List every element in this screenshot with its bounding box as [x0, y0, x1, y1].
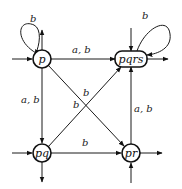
node-label-p: p [38, 53, 45, 66]
edge-pq-to-pr: b [51, 137, 121, 153]
edge-p-to-pq: a, b [21, 68, 42, 143]
node-pr: pr [122, 144, 140, 162]
automaton-diagram: b b a, b a, b b b b a, b p pqrs pq [0, 0, 182, 189]
edge-label-pr-to-pqrs: a, b [134, 103, 153, 114]
edge-label-pqrs-self: b [142, 10, 148, 21]
edge-pr-to-pqrs: a, b [131, 67, 153, 144]
node-label-pr: pr [125, 147, 138, 160]
edge-pqrs-self-loop: b [137, 10, 170, 55]
node-pqrs: pqrs [115, 51, 147, 67]
edge-label-p-to-pqrs: a, b [72, 44, 91, 55]
node-pq: pq [33, 144, 51, 162]
edge-label-p-self: b [30, 13, 36, 24]
edge-label-pq-to-pr: b [82, 137, 88, 148]
edge-p-self-loop: b [21, 13, 40, 55]
edge-label-p-to-pr: b [83, 87, 89, 98]
edge-pq-to-pqrs: b [48, 67, 121, 147]
edge-label-p-to-pq: a, b [21, 94, 40, 105]
node-label-pq: pq [35, 147, 49, 160]
edge-p-to-pqrs: a, b [51, 44, 115, 59]
node-p: p [33, 50, 51, 68]
edge-label-pq-to-pqrs: b [73, 99, 79, 110]
node-label-pqrs: pqrs [119, 53, 144, 66]
